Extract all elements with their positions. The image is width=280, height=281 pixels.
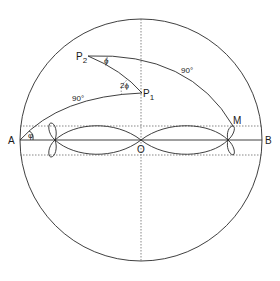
label-P1: P1 [143,88,155,102]
label-P2-sub: 2 [83,56,88,65]
label-M: M [233,115,241,126]
label-phi-P2: ϕ [104,56,109,65]
label-phi-A: φ [28,131,33,140]
label-A: A [8,135,15,146]
label-O: O [137,144,145,155]
arc-P2-P1 [88,56,142,93]
stereographic-diagram: A B O M P1 P2 φ ϕ 2ϕ 90° 90° [0,0,280,281]
lobe-right-small-up [227,126,234,140]
label-P2: P2 [76,51,88,65]
label-P1-sub: 1 [150,93,155,102]
lobe-left-small-down [49,140,56,157]
lobe-left-small-up [49,123,56,140]
label-B: B [265,135,272,146]
label-arc-P2-M: 90° [181,66,193,75]
label-2phi-P1: 2ϕ [120,81,129,90]
label-arc-A-P1: 90° [72,94,84,103]
lobe-right-small-down [227,140,234,155]
